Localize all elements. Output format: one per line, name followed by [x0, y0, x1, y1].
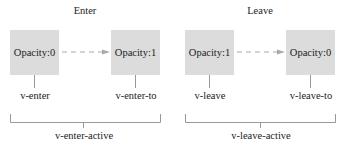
enter-start-label: v-enter: [0, 90, 75, 101]
enter-active-label: v-enter-active: [43, 130, 125, 141]
enter-to-box-label: Opacity:1: [115, 47, 156, 58]
leave-end-label: v-leave-to: [271, 90, 342, 101]
enter-title: Enter: [35, 5, 135, 16]
enter-to-box: Opacity:1: [111, 30, 160, 75]
enter-from-box: Opacity:0: [10, 30, 59, 75]
leave-active-label: v-leave-active: [219, 130, 303, 141]
enter-from-box-label: Opacity:0: [14, 47, 55, 58]
leave-from-box-label: Opacity:1: [189, 47, 230, 58]
leave-start-label: v-leave: [170, 90, 250, 101]
connector-lines: [0, 0, 342, 150]
leave-from-box: Opacity:1: [185, 30, 234, 75]
leave-title: Leave: [210, 5, 310, 16]
leave-to-box-label: Opacity:0: [290, 47, 331, 58]
leave-to-box: Opacity:0: [286, 30, 335, 75]
enter-end-label: v-enter-to: [96, 90, 176, 101]
